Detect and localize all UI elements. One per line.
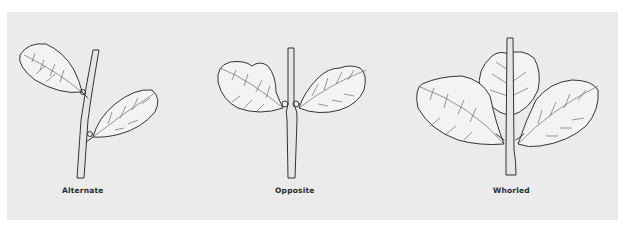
alternate-caption: Alternate xyxy=(62,186,104,195)
whorled-caption: Whorled xyxy=(493,186,530,195)
alternate-illustration: Alternate xyxy=(0,0,210,226)
opposite-caption: Opposite xyxy=(275,186,315,195)
alternate-leaf-drawing xyxy=(0,0,210,226)
opposite-illustration: Opposite xyxy=(200,0,400,226)
whorled-illustration: Whorled xyxy=(400,0,626,226)
